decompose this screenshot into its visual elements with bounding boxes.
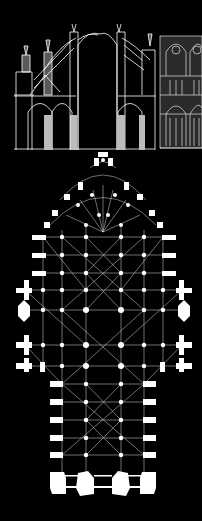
facade-elevation [160, 36, 202, 148]
cathedral-drawing [0, 0, 202, 521]
